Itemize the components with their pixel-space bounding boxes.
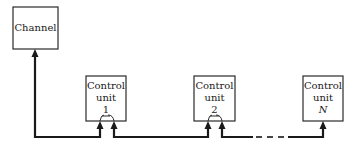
control-unit-2-id: 2 [211,104,217,115]
arrow-up-icon [32,49,39,57]
control-unit-1-line2: unit [96,92,116,103]
control-unit-2-line2: unit [204,92,224,103]
arrow-up-icon [219,121,226,129]
control-unit-1-box: Control unit 1 [86,76,126,121]
arrow-up-icon [111,121,118,129]
channel-label: Channel [14,22,56,33]
arrow-up-icon [97,121,104,129]
control-unit-n-id: N [318,104,329,115]
arrow-up-icon [205,121,212,129]
channel-box: Channel [13,7,58,49]
control-unit-n-box: Control unit N [303,76,343,121]
control-unit-n-line2: unit [313,92,333,103]
control-unit-2-line1: Control [195,80,233,91]
daisy-chain-diagram: Channel Control unit 1 Control unit 2 Co… [0,0,361,147]
control-unit-2-box: Control unit 2 [194,76,235,121]
bus-segment-cu1-cu2 [114,127,208,137]
arrow-up-icon [320,121,327,129]
bus-segment-cu2-out [222,127,253,137]
bus-segment-cun-in [288,127,323,137]
control-unit-n-line1: Control [304,80,342,91]
control-unit-1-line1: Control [87,80,125,91]
control-unit-1-id: 1 [103,104,109,115]
